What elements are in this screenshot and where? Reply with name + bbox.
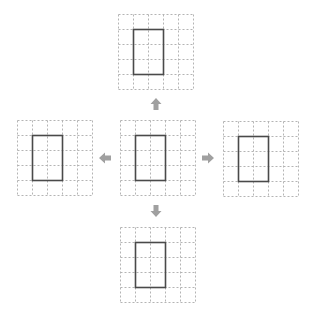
arrow-left-icon xyxy=(99,153,111,164)
grid-panel-top xyxy=(119,15,194,90)
grid-panel-center xyxy=(121,121,196,196)
arrow-up-icon xyxy=(151,98,162,110)
grid-panels xyxy=(18,15,299,303)
direction-arrows xyxy=(99,98,214,217)
grid-panel-left xyxy=(18,121,93,196)
arrow-right-icon xyxy=(202,153,214,164)
arrow-down-icon xyxy=(151,205,162,217)
grid-panel-bottom xyxy=(121,228,196,303)
grid-panel-right xyxy=(224,122,299,197)
transformation-diagram xyxy=(0,0,313,315)
